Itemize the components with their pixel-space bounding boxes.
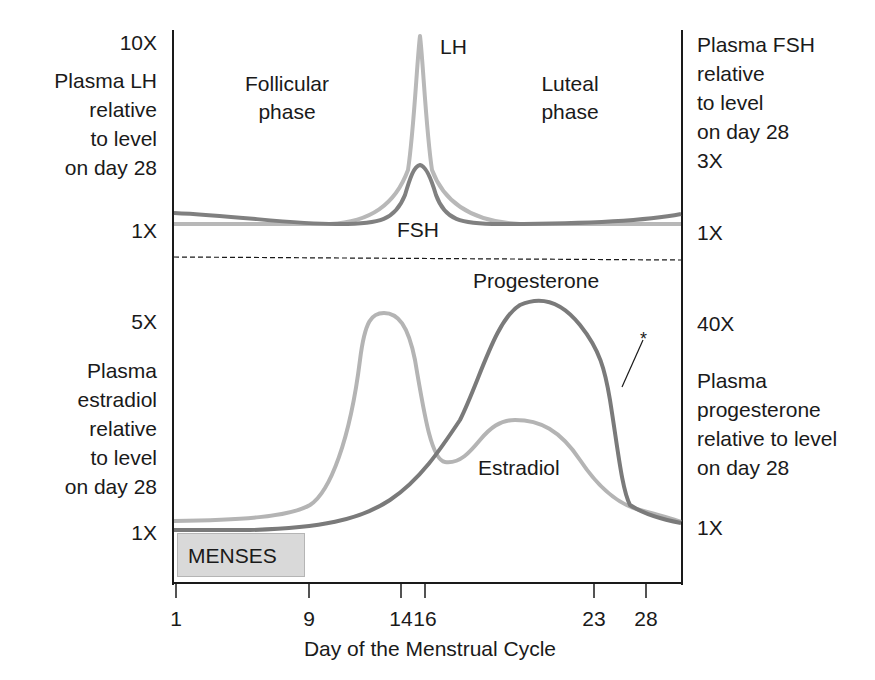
lh-axis-label-line: Plasma LH [54,66,157,95]
luteal-phase-line: Luteal [520,70,620,98]
fsh-axis-label-line: Plasma FSH [697,30,815,59]
estradiol-axis-label-line: to level [65,443,157,472]
follicular-phase-label: Follicular phase [232,70,342,126]
fsh-axis-label-line: on day 28 [697,117,815,146]
lh-tick-1x: 1X [131,218,157,244]
estradiol-axis-label: Plasma estradiol relative to level on da… [65,356,157,501]
lh-curve [174,36,681,224]
x-tick-28: 28 [628,606,664,632]
progesterone-axis-label-line: progesterone [697,395,837,424]
fsh-tick-1x: 1X [697,220,723,246]
x-tick-9: 9 [294,606,324,632]
lh-axis-label: Plasma LH relative to level on day 28 [54,66,157,182]
estradiol-curve [174,313,681,522]
estradiol-axis-label-line: estradiol [65,385,157,414]
menses-box: MENSES [177,533,305,577]
fsh-curve-label: FSH [397,217,439,243]
luteal-phase-label: Luteal phase [520,70,620,126]
progesterone-axis-label-line: relative to level [697,424,837,453]
estradiol-axis-label-line: Plasma [65,356,157,385]
fsh-curve [174,165,681,224]
x-tick-23: 23 [576,606,612,632]
lh-curve-label: LH [440,34,467,60]
estradiol-tick-5x: 5X [131,309,157,335]
progesterone-tick-1x: 1X [697,515,723,541]
progesterone-curve-label: Progesterone [473,268,599,294]
follicular-phase-line: phase [232,98,342,126]
progesterone-tick-40x: 40X [697,311,734,337]
estradiol-curve-label: Estradiol [478,455,560,481]
fsh-axis-label: Plasma FSH relative to level on day 28 3… [697,30,815,175]
estradiol-axis-label-line: on day 28 [65,472,157,501]
progesterone-axis-label-line: Plasma [697,366,837,395]
estradiol-axis-label-line: relative [65,414,157,443]
progesterone-axis-label-line: on day 28 [697,453,837,482]
lh-tick-10x: 10X [120,30,157,56]
asterisk-annotation: * [640,326,647,352]
fsh-axis-label-line: relative [697,59,815,88]
fsh-axis-label-line: to level [697,88,815,117]
lh-axis-label-line: relative [54,95,157,124]
panel-divider [174,257,681,260]
luteal-phase-line: phase [520,98,620,126]
progesterone-curve [174,301,681,530]
lh-axis-label-line: to level [54,124,157,153]
fsh-tick-3x: 3X [697,146,815,175]
x-tick-16: 16 [407,606,443,632]
progesterone-axis-label: Plasma progesterone relative to level on… [697,366,837,482]
x-tick-1: 1 [161,606,191,632]
x-ticks [176,583,646,598]
estradiol-tick-1x: 1X [131,520,157,546]
lh-axis-label-line: on day 28 [54,153,157,182]
follicular-phase-line: Follicular [232,70,342,98]
x-axis-title: Day of the Menstrual Cycle [230,636,630,662]
